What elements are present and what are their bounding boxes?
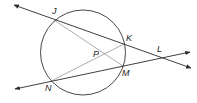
- label-k: K: [126, 33, 133, 43]
- label-m: M: [122, 68, 130, 78]
- label-p: P: [93, 49, 99, 59]
- chord-jm: [54, 20, 123, 66]
- geometry-diagram: J K L M N P: [0, 0, 197, 103]
- circle: [41, 10, 126, 95]
- label-j: J: [51, 6, 57, 16]
- label-l: L: [157, 44, 162, 54]
- chord-nk: [51, 44, 124, 81]
- label-n: N: [45, 83, 52, 93]
